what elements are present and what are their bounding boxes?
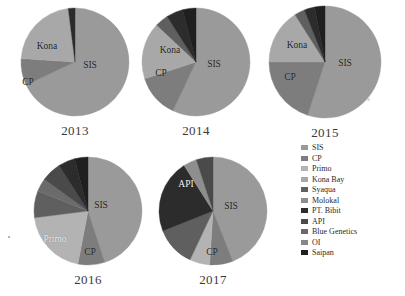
pie-chart-2015: SISKonaCP bbox=[265, 2, 385, 122]
legend-swatch-icon bbox=[301, 250, 308, 255]
legend-label: Primo bbox=[312, 164, 332, 173]
pie-slice-kona-bay bbox=[21, 8, 75, 62]
pie-chart-2014: SISKonaCP bbox=[138, 4, 254, 120]
legend-item-saipan: Saipan bbox=[301, 248, 401, 258]
pie-chart-2017: SISAPICP bbox=[155, 153, 271, 269]
legend-label: Syaqua bbox=[312, 185, 336, 194]
legend-swatch-icon bbox=[301, 145, 308, 150]
pie-panel-2016: SISPrimoCP2016 bbox=[30, 153, 146, 288]
legend-label: API bbox=[312, 217, 325, 226]
legend-item-kona-bay: Kona Bay bbox=[301, 174, 401, 184]
legend-label: Molokal bbox=[312, 196, 339, 205]
legend-swatch-icon bbox=[301, 240, 308, 245]
panel-year-label: 2015 bbox=[265, 125, 385, 141]
legend-item-api: API bbox=[301, 216, 401, 226]
pie-chart-2013: SISKonaCP bbox=[17, 4, 133, 120]
legend-item-pt-bibit: PT. Bibit bbox=[301, 206, 401, 216]
legend-swatch-icon bbox=[301, 187, 308, 192]
pie-panel-2017: SISAPICP2017 bbox=[155, 153, 271, 288]
legend-swatch-icon bbox=[301, 198, 308, 203]
panel-year-label: 2013 bbox=[17, 123, 133, 139]
legend-swatch-icon bbox=[301, 229, 308, 234]
legend-label: SIS bbox=[312, 143, 324, 152]
legend-item-primo: Primo bbox=[301, 164, 401, 174]
legend-label: Saipan bbox=[312, 248, 334, 257]
legend-item-oi: OI bbox=[301, 237, 401, 247]
legend-label: PT. Bibit bbox=[312, 206, 341, 215]
legend-label: OI bbox=[312, 238, 320, 247]
legend-label: Kona Bay bbox=[312, 175, 344, 184]
chart-legend: SISCPPrimoKona BaySyaquaMolokalPT. Bibit… bbox=[301, 143, 401, 258]
panel-year-label: 2014 bbox=[138, 123, 254, 139]
legend-label: CP bbox=[312, 154, 322, 163]
legend-item-cp: CP bbox=[301, 153, 401, 163]
legend-swatch-icon bbox=[301, 177, 308, 182]
pie-chart-figure: SISKonaCP2013SISKonaCP2014SISKonaCP2015S… bbox=[0, 0, 405, 296]
pie-panel-2015: SISKonaCP2015 bbox=[265, 2, 385, 141]
scan-speck bbox=[367, 98, 370, 101]
panel-year-label: 2016 bbox=[30, 272, 146, 288]
legend-label: Blue Genetics bbox=[312, 227, 357, 236]
legend-item-molokal: Molokal bbox=[301, 195, 401, 205]
legend-swatch-icon bbox=[301, 219, 308, 224]
pie-panel-2013: SISKonaCP2013 bbox=[17, 4, 133, 139]
panel-year-label: 2017 bbox=[155, 272, 271, 288]
scan-speck bbox=[8, 236, 10, 238]
legend-swatch-icon bbox=[301, 156, 308, 161]
legend-swatch-icon bbox=[301, 208, 308, 213]
legend-item-sis: SIS bbox=[301, 143, 401, 153]
legend-item-blue-genetics: Blue Genetics bbox=[301, 227, 401, 237]
pie-chart-2016: SISPrimoCP bbox=[30, 153, 146, 269]
legend-item-syaqua: Syaqua bbox=[301, 185, 401, 195]
pie-panel-2014: SISKonaCP2014 bbox=[138, 4, 254, 139]
legend-swatch-icon bbox=[301, 166, 308, 171]
